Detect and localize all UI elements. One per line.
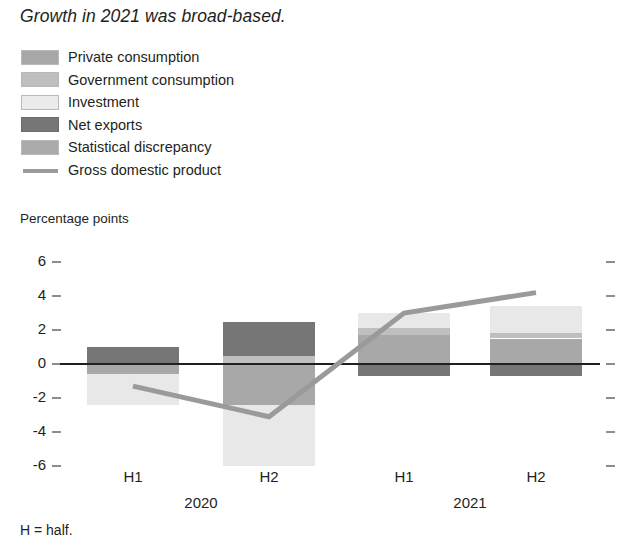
x-axis-group-label: 2020	[87, 494, 315, 511]
x-axis-tick-label: H2	[223, 468, 315, 485]
figure-footnote: H = half.	[20, 522, 73, 538]
gdp-polyline	[133, 293, 536, 417]
gdp-line-series	[0, 0, 625, 549]
x-axis-tick-label: H2	[490, 468, 582, 485]
chart-figure: Growth in 2021 was broad-based. Private …	[0, 0, 625, 549]
x-axis-tick-label: H1	[87, 468, 179, 485]
x-axis-tick-label: H1	[358, 468, 450, 485]
x-axis-group-label: 2021	[358, 494, 582, 511]
plot-area: 6420-2-4-6H1H2H1H220202021	[0, 0, 625, 549]
